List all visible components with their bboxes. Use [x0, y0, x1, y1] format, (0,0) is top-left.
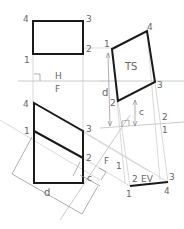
fold-line-f1: F 1	[104, 156, 122, 171]
ev-label-1: 1	[126, 189, 132, 199]
front-label-3: 3	[86, 124, 92, 134]
dimension-c-label: c	[87, 173, 92, 183]
top-label-4: 4	[23, 14, 29, 24]
fold-line-hf: H F	[34, 71, 62, 94]
ev-label: EV	[141, 174, 154, 184]
ev-label-2: 2	[132, 174, 138, 184]
front-label-2: 2	[86, 153, 92, 163]
right-angle-mark	[34, 74, 40, 81]
fold-label-1-aux: 1	[116, 161, 122, 171]
top-label-3: 3	[86, 14, 92, 24]
ts-label-3: 3	[157, 80, 163, 90]
fold-label-f-aux: F	[104, 156, 109, 166]
front-label-4: 4	[23, 99, 29, 109]
fold-label-1-sec: 1	[162, 125, 168, 135]
ts-dimension-d-label: d	[102, 87, 108, 98]
front-label-1: 1	[24, 126, 30, 136]
top-label-2: 2	[86, 44, 92, 54]
front-view: 4 3 1 2 d c	[12, 99, 106, 214]
diagram-canvas: 4 3 2 1 H F 4 3 1 2 d c F 1 2 EV 3	[0, 0, 184, 229]
ts-dimension-c-label: c	[139, 107, 144, 117]
fold-label-2-sec: 2	[162, 112, 168, 122]
ts-label-1: 1	[104, 39, 110, 49]
fold-label-f: F	[55, 84, 60, 94]
ev-label-3: 3	[169, 172, 175, 182]
top-view-rect	[33, 21, 83, 54]
dimension-d-label: d	[44, 187, 50, 198]
ev-label-4: 4	[164, 186, 170, 196]
top-label-1: 1	[24, 55, 30, 65]
ts-label-2: 2	[110, 98, 116, 108]
ts-label-4: 4	[147, 22, 153, 32]
fold-label-h: H	[55, 71, 62, 81]
ts-label: TS	[124, 61, 137, 72]
